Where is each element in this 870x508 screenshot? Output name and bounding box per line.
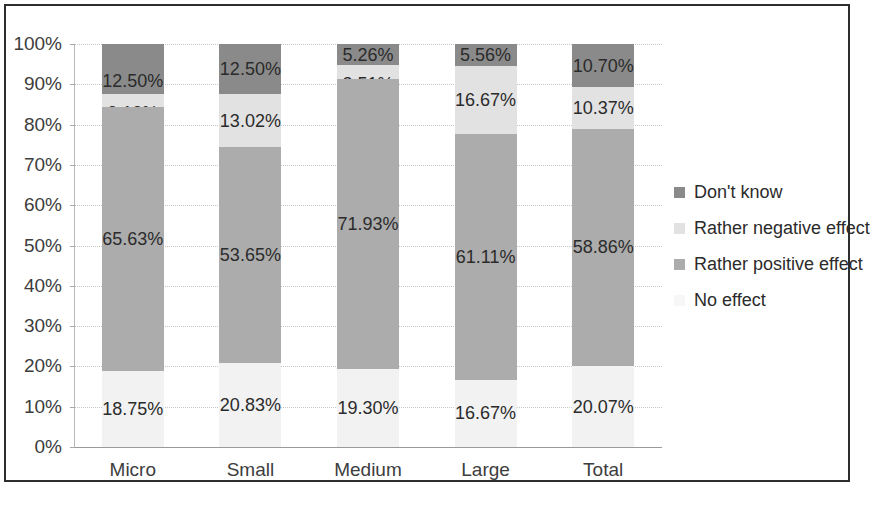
segment-small-no-effect[interactable]: 20.83%: [219, 363, 281, 447]
legend-label-dont-know: Don't know: [694, 182, 782, 203]
segment-small-rather-negative[interactable]: 13.02%: [219, 94, 281, 146]
bar-stack-small[interactable]: 12.50% 13.02% 53.65% 20.83%: [219, 44, 281, 447]
segment-label-total-no-effect: 20.07%: [573, 396, 634, 417]
y-tick-label-30: 30%: [24, 315, 62, 337]
segment-micro-rather-negative[interactable]: 3.13%: [102, 94, 164, 107]
chart-frame: 100% 90% 80% 70% 60% 50% 40% 30% 20% 10%…: [4, 4, 850, 482]
segment-label-total-rather-positive: 58.86%: [573, 237, 634, 258]
legend-swatch-icon-dont-know: [674, 187, 685, 198]
legend-item-rather-negative-effect[interactable]: Rather negative effect: [674, 210, 854, 246]
segment-small-dont-know[interactable]: 12.50%: [219, 44, 281, 94]
y-tick-label-20: 20%: [24, 355, 62, 377]
segment-label-large-no-effect: 16.67%: [455, 403, 516, 424]
bar-slot-micro: 12.50% 3.13% 65.63% 18.75%: [74, 44, 192, 447]
legend-swatch-icon-rather-positive-effect: [674, 259, 685, 270]
legend-item-no-effect[interactable]: No effect: [674, 282, 854, 318]
legend-swatch-icon-rather-negative-effect: [674, 223, 685, 234]
x-axis: Micro Small Medium Large Total: [74, 447, 662, 483]
y-tick-label-10: 10%: [24, 396, 62, 418]
segment-total-dont-know[interactable]: 10.70%: [572, 44, 634, 87]
x-tick-label-total: Total: [544, 447, 662, 483]
segment-label-large-dont-know: 5.56%: [460, 45, 511, 66]
legend-item-dont-know[interactable]: Don't know: [674, 174, 854, 210]
bar-stack-micro[interactable]: 12.50% 3.13% 65.63% 18.75%: [102, 44, 164, 447]
segment-label-medium-dont-know: 5.26%: [342, 44, 393, 65]
segment-label-small-rather-positive: 53.65%: [220, 244, 281, 265]
segment-medium-dont-know[interactable]: 5.26%: [337, 44, 399, 65]
segment-label-total-dont-know: 10.70%: [573, 55, 634, 76]
bar-slot-small: 12.50% 13.02% 53.65% 20.83%: [192, 44, 310, 447]
segment-total-rather-positive[interactable]: 58.86%: [572, 129, 634, 366]
segment-medium-rather-negative[interactable]: 3.51%: [337, 65, 399, 79]
segment-label-medium-rather-positive: 71.93%: [337, 214, 398, 235]
x-tick-label-large: Large: [427, 447, 545, 483]
bars-layer: 12.50% 3.13% 65.63% 18.75%: [74, 44, 662, 447]
segment-label-small-no-effect: 20.83%: [220, 395, 281, 416]
segment-large-rather-negative[interactable]: 16.67%: [455, 66, 517, 133]
segment-total-no-effect[interactable]: 20.07%: [572, 366, 634, 447]
segment-medium-rather-positive[interactable]: 71.93%: [337, 79, 399, 369]
y-tick-label-70: 70%: [24, 154, 62, 176]
y-tick-label-50: 50%: [24, 235, 62, 257]
y-tick-label-90: 90%: [24, 73, 62, 95]
bar-slot-total: 10.70% 10.37% 58.86% 20.07%: [544, 44, 662, 447]
segment-medium-no-effect[interactable]: 19.30%: [337, 369, 399, 447]
segment-label-medium-no-effect: 19.30%: [337, 398, 398, 419]
segment-total-rather-negative[interactable]: 10.37%: [572, 87, 634, 129]
bar-stack-medium[interactable]: 5.26% 3.51% 71.93% 19.30%: [337, 44, 399, 447]
x-tick-label-medium: Medium: [309, 447, 427, 483]
segment-label-total-rather-negative: 10.37%: [573, 98, 634, 119]
legend-item-rather-positive-effect[interactable]: Rather positive effect: [674, 246, 854, 282]
segment-label-small-rather-negative: 13.02%: [220, 110, 281, 131]
segment-large-dont-know[interactable]: 5.56%: [455, 44, 517, 66]
bar-slot-large: 5.56% 16.67% 61.11% 16.67%: [427, 44, 545, 447]
segment-label-micro-no-effect: 18.75%: [102, 399, 163, 420]
y-tick-label-60: 60%: [24, 194, 62, 216]
legend-swatch-icon-no-effect: [674, 295, 685, 306]
segment-label-micro-rather-positive: 65.63%: [102, 229, 163, 250]
legend: Don't know Rather negative effect Rather…: [674, 174, 854, 318]
bar-slot-medium: 5.26% 3.51% 71.93% 19.30%: [309, 44, 427, 447]
segment-label-large-rather-negative: 16.67%: [455, 89, 516, 110]
legend-label-rather-negative-effect: Rather negative effect: [694, 218, 870, 239]
segment-large-rather-positive[interactable]: 61.11%: [455, 134, 517, 380]
page-margin: [0, 488, 856, 508]
bar-stack-total[interactable]: 10.70% 10.37% 58.86% 20.07%: [572, 44, 634, 447]
segment-label-small-dont-know: 12.50%: [220, 59, 281, 80]
x-tick-label-small: Small: [192, 447, 310, 483]
legend-label-rather-positive-effect: Rather positive effect: [694, 254, 863, 275]
segment-micro-no-effect[interactable]: 18.75%: [102, 371, 164, 447]
x-tick-label-micro: Micro: [74, 447, 192, 483]
y-tick-label-40: 40%: [24, 275, 62, 297]
segment-micro-rather-positive[interactable]: 65.63%: [102, 107, 164, 371]
y-tick-label-80: 80%: [24, 114, 62, 136]
segment-label-large-rather-positive: 61.11%: [456, 246, 516, 267]
segment-large-no-effect[interactable]: 16.67%: [455, 380, 517, 447]
segment-small-rather-positive[interactable]: 53.65%: [219, 147, 281, 363]
segment-label-micro-dont-know: 12.50%: [102, 71, 163, 92]
plot-area: 12.50% 3.13% 65.63% 18.75%: [74, 44, 662, 447]
y-tick-label-0: 0%: [35, 436, 62, 458]
y-axis: 100% 90% 80% 70% 60% 50% 40% 30% 20% 10%…: [6, 44, 68, 447]
legend-label-no-effect: No effect: [694, 290, 766, 311]
bar-stack-large[interactable]: 5.56% 16.67% 61.11% 16.67%: [455, 44, 517, 447]
segment-micro-dont-know[interactable]: 12.50%: [102, 44, 164, 94]
y-tick-label-100: 100%: [13, 33, 62, 55]
